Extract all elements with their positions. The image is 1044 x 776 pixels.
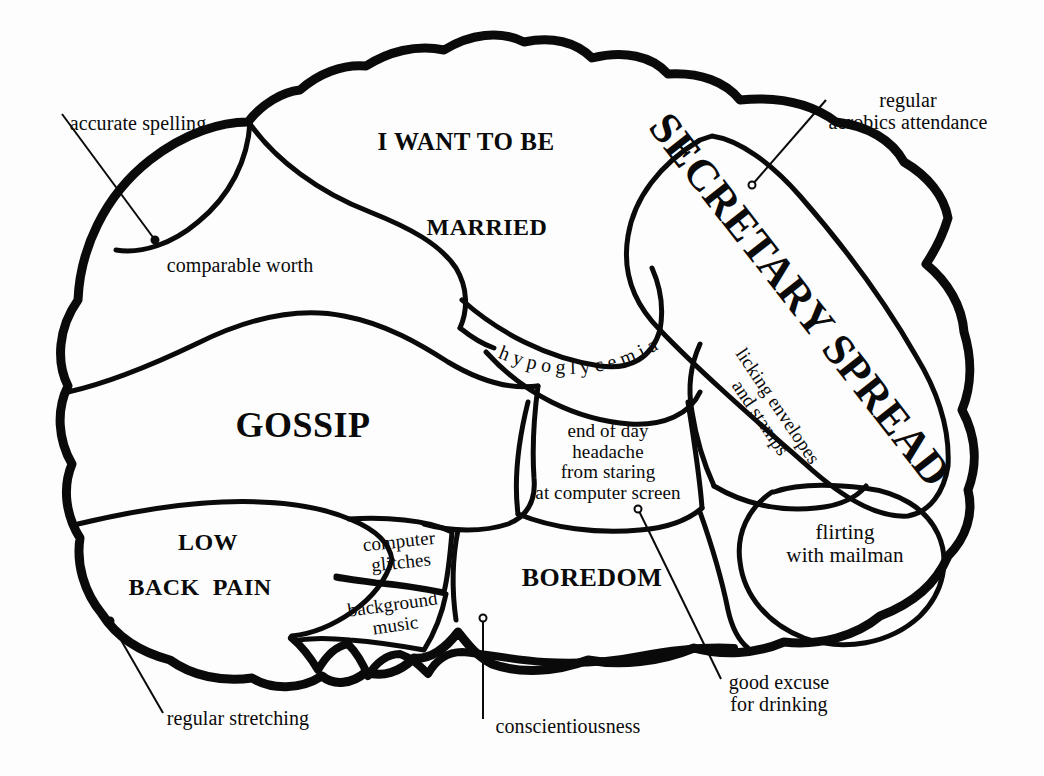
region-boredom-left <box>453 530 458 620</box>
brain-outline <box>60 35 974 687</box>
brain-illustration <box>0 0 1044 776</box>
brain-diagram: hypoglycemia I WANT TO BEMARRIEDSECRETAR… <box>0 0 1044 776</box>
region-headache-left <box>516 402 528 514</box>
region-low-back-pain-top <box>78 502 392 560</box>
region-headache-bottom <box>518 508 702 531</box>
connector-frontal <box>460 328 494 348</box>
region-flirting-border <box>739 485 944 644</box>
region-gossip-right-border <box>424 386 538 530</box>
region-low-back-pain-right <box>292 560 392 636</box>
region-gossip-top-border <box>68 313 538 392</box>
region-secretary-spread-border <box>626 136 948 516</box>
region-licking-left <box>690 344 714 486</box>
region-background-music <box>300 578 446 650</box>
region-comparable-worth-lower <box>250 124 466 328</box>
